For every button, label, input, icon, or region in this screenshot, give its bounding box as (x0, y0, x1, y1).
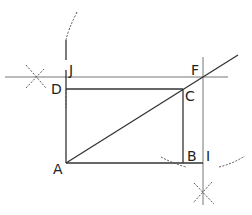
label-j: J (68, 62, 73, 78)
construction-cross-left-b (26, 69, 44, 88)
label-i: I (206, 148, 210, 164)
label-c: C (185, 88, 195, 104)
construction-arc-b (161, 157, 186, 167)
construction-cross-bottom-a (194, 183, 214, 204)
construction-arc-i (219, 156, 245, 167)
label-f: F (191, 62, 199, 78)
label-d: D (51, 81, 62, 97)
diagonal-acf (66, 55, 238, 163)
label-b: B (187, 148, 197, 164)
geometry-diagram: J D F C A B I (0, 0, 252, 215)
construction-arc-top (66, 12, 77, 40)
label-a: A (53, 161, 63, 177)
